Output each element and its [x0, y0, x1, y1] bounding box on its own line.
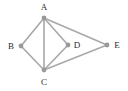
graph-edge-c-d — [44, 45, 68, 70]
vertex-label-c: C — [41, 78, 47, 87]
vertex-label-e: E — [114, 41, 120, 50]
graph-node-e — [105, 43, 110, 48]
graph-edge-a-d — [44, 18, 68, 45]
graph-node-b — [19, 44, 24, 49]
graph-node-c — [42, 68, 47, 73]
graph-edge-a-b — [21, 18, 44, 46]
node-layer — [19, 16, 110, 73]
vertex-label-a: A — [41, 3, 48, 12]
graph-diagram: ABCDE — [0, 0, 128, 91]
edge-layer — [21, 18, 107, 70]
graph-node-d — [66, 43, 71, 48]
graph-canvas — [0, 0, 128, 91]
graph-edge-b-c — [21, 46, 44, 70]
vertex-label-b: B — [8, 42, 14, 51]
graph-node-a — [42, 16, 47, 21]
vertex-label-d: D — [74, 41, 81, 50]
